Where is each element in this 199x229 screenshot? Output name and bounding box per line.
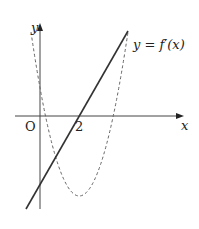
origin-label: O bbox=[25, 119, 36, 134]
y-axis-label: y bbox=[30, 20, 39, 35]
chart-canvas: y x O 2 y = f′(x) bbox=[0, 0, 199, 229]
tick-label-2: 2 bbox=[75, 119, 83, 134]
curve-label: y = f′(x) bbox=[132, 37, 185, 52]
x-axis-label: x bbox=[181, 118, 189, 133]
